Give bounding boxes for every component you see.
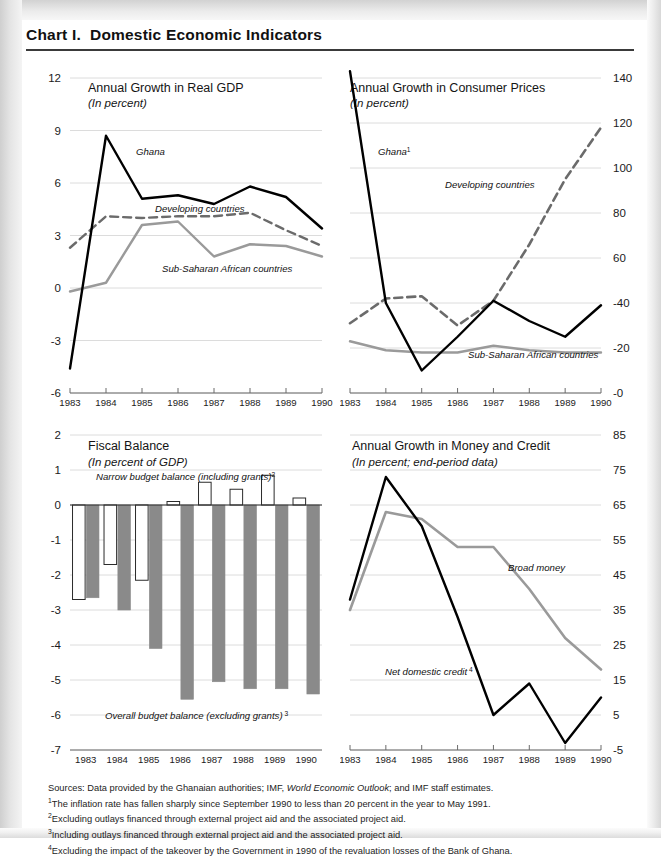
y-axis-tick: 9 [55, 125, 61, 137]
series-label: Net domestic credit 4 [385, 666, 473, 678]
panel-money-and-credit: 85756555453525155-5198319841985198619871… [340, 410, 661, 775]
x-axis-tick: 1986 [447, 754, 468, 765]
bar [275, 505, 288, 689]
panel-real-gdp: 129630-3-6198319841985198619871988198919… [0, 0, 340, 410]
x-axis-tick: 1985 [138, 754, 159, 765]
y-axis-tick: -2 [51, 569, 61, 581]
y-axis-tick: 75 [613, 464, 626, 476]
x-axis-tick: 1983 [340, 754, 361, 765]
bar [104, 505, 117, 565]
series-label: Ghana1 [378, 146, 411, 158]
x-axis-tick: 1988 [239, 397, 260, 408]
x-axis-tick: 1990 [590, 397, 611, 408]
y-axis-tick: 2 [55, 429, 61, 441]
y-axis-tick: -3 [51, 335, 61, 347]
series-label: Overall budget balance (excluding grants… [105, 710, 288, 722]
x-axis-tick: 1987 [483, 754, 504, 765]
y-axis-tick: 12 [48, 72, 61, 84]
y-axis-tick: -1 [51, 534, 61, 546]
panel-fiscal-balance: 210-1-2-3-4-5-6-7Fiscal Balance(In perce… [0, 410, 340, 775]
x-axis-tick: 1989 [554, 397, 575, 408]
x-axis-tick: 1989 [264, 754, 285, 765]
money-and-credit-chart: 85756555453525155-5198319841985198619871… [340, 410, 661, 775]
chart-title: Annual Growth in Real GDP [88, 81, 244, 95]
data-series-line [350, 512, 601, 670]
x-axis-tick: 1985 [411, 397, 432, 408]
x-axis-tick: 1984 [95, 397, 117, 408]
y-axis-tick: 3 [55, 230, 61, 242]
bar [118, 505, 131, 610]
series-label: Broad money [508, 562, 566, 573]
y-axis-tick: -5 [613, 744, 623, 756]
y-axis-tick: 1 [55, 464, 61, 476]
y-axis-tick: 85 [613, 429, 626, 441]
footnote-3-text: Including outlays financed through exter… [52, 830, 403, 840]
y-axis-tick: 15 [613, 674, 626, 686]
series-label: Developing countries [445, 179, 535, 190]
chart-title: Fiscal Balance [88, 439, 169, 453]
series-label: Developing countries [155, 203, 245, 214]
x-axis-tick: 1983 [340, 397, 361, 408]
y-axis-tick: 6 [55, 177, 61, 189]
footnote-1-text: The inflation rate has fallen sharply si… [52, 799, 491, 809]
x-axis-tick: 1985 [131, 397, 152, 408]
y-axis-tick: 100 [613, 162, 632, 174]
y-axis-tick: 120 [613, 117, 632, 129]
x-axis-tick: 1990 [311, 397, 332, 408]
bar [230, 489, 243, 505]
real-gdp-chart: 129630-3-6198319841985198619871988198919… [0, 0, 340, 410]
x-axis-tick: 1983 [59, 397, 80, 408]
footnote-4-text: Excluding the impact of the takeover by … [52, 846, 512, 856]
y-axis-tick: -3 [51, 604, 61, 616]
x-axis-tick: 1990 [296, 754, 317, 765]
y-axis-tick: -4 [51, 639, 62, 651]
bar [199, 482, 212, 505]
sources-suffix: ; and IMF staff estimates. [389, 783, 493, 793]
x-axis-tick: 1988 [519, 754, 540, 765]
bar [73, 505, 86, 600]
x-axis-tick: 1988 [233, 754, 254, 765]
x-axis-tick: 1987 [483, 397, 504, 408]
series-label: Sub-Saharan African countries [162, 263, 293, 274]
y-axis-tick: 0 [55, 499, 61, 511]
y-axis-tick: -0 [613, 387, 623, 399]
y-axis-tick: -7 [51, 744, 61, 756]
series-label: Sub-Saharan African countries [468, 349, 599, 360]
footnotes-block: Sources: Data provided by the Ghanaian a… [48, 783, 648, 857]
y-axis-tick: 0 [55, 282, 61, 294]
data-series-line [350, 71, 601, 370]
x-axis-tick: 1990 [590, 754, 611, 765]
bar [293, 498, 306, 505]
bar [212, 505, 225, 682]
footnote-3: 3Including outlays financed through exte… [48, 826, 648, 842]
chart-subtitle: (In percent) [88, 97, 147, 109]
footnote-2: 2Excluding outlays financed through exte… [48, 810, 648, 826]
x-axis-tick: 1986 [167, 397, 188, 408]
y-axis-tick: -5 [51, 674, 61, 686]
bar [149, 505, 162, 649]
x-axis-tick: 1987 [201, 754, 222, 765]
y-axis-tick: 65 [613, 499, 626, 511]
x-axis-tick: 1984 [375, 397, 397, 408]
x-axis-tick: 1983 [75, 754, 96, 765]
y-axis-tick: 55 [613, 534, 626, 546]
bar [86, 505, 99, 598]
footnote-4: 4Excluding the impact of the takeover by… [48, 842, 648, 857]
footnote-2-text: Excluding outlays financed through exter… [52, 814, 406, 824]
data-series-line [70, 222, 322, 292]
footnote-1: 1The inflation rate has fallen sharply s… [48, 795, 648, 811]
x-axis-tick: 1989 [554, 754, 575, 765]
y-axis-tick: 45 [613, 569, 626, 581]
x-axis-tick: 1987 [203, 397, 224, 408]
bar [181, 505, 194, 699]
sources-prefix: Sources: Data provided by the Ghanaian a… [48, 783, 287, 793]
y-axis-tick: 35 [613, 604, 626, 616]
data-series-line [350, 128, 601, 326]
sources-publication: World Economic Outlook [287, 783, 389, 793]
y-axis-tick: 25 [613, 639, 626, 651]
consumer-prices-chart: 1401201008060-40-20-01983198419851986198… [340, 0, 661, 410]
y-axis-tick: -20 [613, 342, 630, 354]
y-axis-tick: 140 [613, 72, 632, 84]
chart-title: Annual Growth in Consumer Prices [350, 81, 545, 95]
